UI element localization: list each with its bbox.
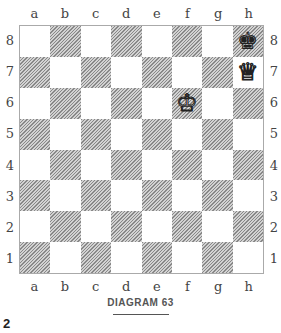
white-king-icon: ♔ — [176, 91, 198, 115]
chess-board: ♚♕♔ — [19, 25, 264, 274]
caption-underline — [113, 314, 169, 315]
file-label-f-bottom: f — [172, 279, 203, 294]
square-a1 — [20, 242, 50, 273]
square-e1 — [142, 242, 172, 273]
file-label-g-top: g — [203, 6, 234, 21]
rank-label-7-left: 7 — [2, 56, 18, 87]
square-f5 — [172, 119, 202, 150]
square-g7 — [202, 57, 232, 88]
square-g4 — [202, 150, 232, 181]
square-d8 — [111, 26, 141, 57]
white-queen-icon: ♕ — [237, 60, 259, 84]
square-e2 — [142, 211, 172, 242]
square-h2 — [233, 211, 263, 242]
file-label-h-top: h — [233, 6, 264, 21]
rank-label-4-right: 4 — [266, 150, 281, 181]
file-label-c-top: c — [80, 6, 111, 21]
square-g2 — [202, 211, 232, 242]
file-label-a-top: a — [19, 6, 50, 21]
square-h1 — [233, 242, 263, 273]
square-a6 — [20, 88, 50, 119]
square-d4 — [111, 150, 141, 181]
square-e8 — [142, 26, 172, 57]
rank-label-3-right: 3 — [266, 181, 281, 212]
square-f4 — [172, 150, 202, 181]
file-label-c-bottom: c — [80, 279, 111, 294]
rank-label-2-left: 2 — [2, 212, 18, 243]
square-c3 — [81, 180, 111, 211]
square-h6 — [233, 88, 263, 119]
square-e6 — [142, 88, 172, 119]
square-a8 — [20, 26, 50, 57]
square-b5 — [50, 119, 80, 150]
file-label-b-bottom: b — [50, 279, 81, 294]
square-b1 — [50, 242, 80, 273]
file-label-f-top: f — [172, 6, 203, 21]
square-e5 — [142, 119, 172, 150]
rank-label-5-left: 5 — [2, 118, 18, 149]
square-c4 — [81, 150, 111, 181]
rank-label-1-right: 1 — [266, 243, 281, 274]
square-d2 — [111, 211, 141, 242]
square-c1 — [81, 242, 111, 273]
square-b6 — [50, 88, 80, 119]
square-f3 — [172, 180, 202, 211]
square-e7 — [142, 57, 172, 88]
file-label-a-bottom: a — [19, 279, 50, 294]
square-h7: ♕ — [233, 57, 263, 88]
rank-label-8-left: 8 — [2, 25, 18, 56]
rank-label-7-right: 7 — [266, 56, 281, 87]
square-a4 — [20, 150, 50, 181]
black-king-icon: ♚ — [237, 29, 259, 53]
square-a3 — [20, 180, 50, 211]
file-label-e-top: e — [142, 6, 173, 21]
square-f7 — [172, 57, 202, 88]
rank-label-5-right: 5 — [266, 118, 281, 149]
rank-label-8-right: 8 — [266, 25, 281, 56]
file-label-d-bottom: d — [111, 279, 142, 294]
file-label-e-bottom: e — [142, 279, 173, 294]
square-d5 — [111, 119, 141, 150]
square-f8 — [172, 26, 202, 57]
rank-label-6-right: 6 — [266, 87, 281, 118]
square-a5 — [20, 119, 50, 150]
square-g5 — [202, 119, 232, 150]
square-d3 — [111, 180, 141, 211]
file-label-h-bottom: h — [233, 279, 264, 294]
square-b3 — [50, 180, 80, 211]
square-a7 — [20, 57, 50, 88]
square-h5 — [233, 119, 263, 150]
rank-label-3-left: 3 — [2, 181, 18, 212]
square-d6 — [111, 88, 141, 119]
square-b4 — [50, 150, 80, 181]
square-c2 — [81, 211, 111, 242]
square-g1 — [202, 242, 232, 273]
rank-label-1-left: 1 — [2, 243, 18, 274]
square-h8: ♚ — [233, 26, 263, 57]
square-c8 — [81, 26, 111, 57]
square-b7 — [50, 57, 80, 88]
file-label-d-top: d — [111, 6, 142, 21]
square-g3 — [202, 180, 232, 211]
square-f6: ♔ — [172, 88, 202, 119]
rank-label-6-left: 6 — [2, 87, 18, 118]
square-g8 — [202, 26, 232, 57]
square-f1 — [172, 242, 202, 273]
file-label-b-top: b — [50, 6, 81, 21]
diagram-caption: DIAGRAM 63 — [0, 297, 281, 308]
square-g6 — [202, 88, 232, 119]
square-c5 — [81, 119, 111, 150]
square-f2 — [172, 211, 202, 242]
square-a2 — [20, 211, 50, 242]
square-c7 — [81, 57, 111, 88]
square-b2 — [50, 211, 80, 242]
square-d7 — [111, 57, 141, 88]
page-number: 2 — [3, 316, 10, 331]
square-h4 — [233, 150, 263, 181]
square-c6 — [81, 88, 111, 119]
square-e3 — [142, 180, 172, 211]
square-e4 — [142, 150, 172, 181]
file-label-g-bottom: g — [203, 279, 234, 294]
rank-label-4-left: 4 — [2, 150, 18, 181]
rank-label-2-right: 2 — [266, 212, 281, 243]
